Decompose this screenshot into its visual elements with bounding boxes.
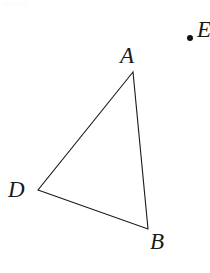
point-marker-dot	[187, 35, 193, 41]
point-marker-label: E	[197, 18, 210, 41]
vertex-label-d: D	[8, 178, 25, 201]
triangle-figure	[0, 0, 210, 273]
vertex-label-a: A	[120, 44, 134, 67]
corner-artifact	[2, 1, 28, 6]
vertex-label-b: B	[150, 230, 164, 253]
triangle-outline	[38, 72, 148, 229]
